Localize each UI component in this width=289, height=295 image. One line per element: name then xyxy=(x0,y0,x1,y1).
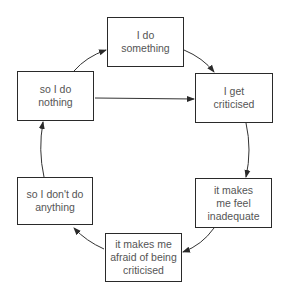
node-text-line: it makes xyxy=(208,184,260,197)
node-text-line: inadequate xyxy=(208,210,260,223)
node-afraid-of-being-criticised: it makes meafraid of beingcriticised xyxy=(105,233,182,282)
node-text-line: afraid of being xyxy=(110,251,177,264)
node-i-get-criticised: I getcriticised xyxy=(195,73,273,123)
node-text-line: me feel xyxy=(208,197,260,210)
edge-do-nothing-to-do-something xyxy=(74,50,106,71)
node-text-line: criticised xyxy=(214,98,255,111)
node-text-line: something xyxy=(121,42,169,55)
edge-do-nothing-to-get-criticised xyxy=(95,98,194,99)
node-text-line: I do xyxy=(121,29,169,42)
node-feel-inadequate: it makesme feelinadequate xyxy=(195,178,272,228)
node-dont-do-anything: so I don't doanything xyxy=(17,177,93,225)
node-text-line: so I do xyxy=(38,83,72,96)
edge-do-something-to-get-criticised xyxy=(184,50,214,72)
node-text-line: it makes me xyxy=(110,238,177,251)
vicious-cycle-diagram: I dosomething I getcriticised it makesme… xyxy=(0,0,289,295)
node-i-do-something: I dosomething xyxy=(107,17,184,67)
node-text-line: criticised xyxy=(110,264,177,277)
node-text-line: so I don't do xyxy=(27,188,84,201)
node-do-nothing: so I donothing xyxy=(17,71,94,121)
node-text-line: I get xyxy=(214,85,255,98)
edge-get-criticised-to-feel-inadequate xyxy=(246,123,249,177)
edge-feel-inadequate-to-afraid-criticised xyxy=(183,228,214,252)
edge-dont-do-anything-to-do-nothing xyxy=(41,122,44,177)
edge-afraid-criticised-to-dont-do-anything xyxy=(74,228,104,249)
node-text-line: anything xyxy=(27,201,84,214)
node-text-line: nothing xyxy=(38,96,72,109)
